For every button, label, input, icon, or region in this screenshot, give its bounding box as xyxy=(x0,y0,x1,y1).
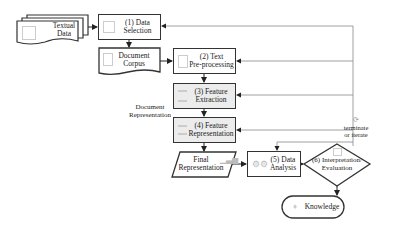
interpretation-line1: (6) Interpretation/ xyxy=(306,156,368,164)
evaluation-icon xyxy=(333,148,342,156)
feature-representation-node: (4) FeatureRepresentation xyxy=(173,117,236,143)
final-representation-line2: Representation xyxy=(176,164,226,172)
selection-icon xyxy=(103,21,115,33)
feature-extraction-line2: Extraction xyxy=(187,96,235,105)
data-selection-node: (1) DataSelection xyxy=(98,14,161,40)
knowledge-node: Knowledge xyxy=(302,203,342,211)
textual-data-line2: Data xyxy=(44,30,84,38)
list-icon xyxy=(178,90,187,102)
terminate-line: terminate xyxy=(338,124,374,131)
feature-representation-line2: Representation xyxy=(187,130,235,139)
document-icon xyxy=(103,53,113,66)
data-analysis-line2: Analysis xyxy=(266,164,300,173)
text-preprocessing-line2: Pre-processing xyxy=(188,61,235,70)
document-corpus-node: Document Corpus xyxy=(110,52,158,68)
document-icon xyxy=(178,55,188,68)
cycle-icon: ⟳ xyxy=(338,117,374,124)
iterate-line: or iterate xyxy=(338,131,374,138)
data-selection-line2: Selection xyxy=(115,27,160,36)
document-representation-line1: Document xyxy=(128,103,172,111)
document-corpus-line2: Corpus xyxy=(110,60,158,68)
document-representation-label: Document Representation xyxy=(128,103,172,119)
lightbulb-icon: ♦ xyxy=(290,203,300,211)
bar-chart-icon: ▁▃▅ xyxy=(220,156,238,164)
textual-data-node: Textual Data xyxy=(44,22,84,38)
final-representation-node: Final Representation xyxy=(176,156,226,172)
feature-extraction-node: (3) FeatureExtraction xyxy=(173,83,236,109)
document-representation-line2: Representation xyxy=(128,111,172,119)
interpretation-line2: Evaluation xyxy=(306,164,368,172)
table-icon xyxy=(178,125,187,135)
interpretation-node: (6) Interpretation/ Evaluation xyxy=(306,156,368,172)
chart-doc-icon xyxy=(22,26,36,40)
text-preprocessing-node: (2) TextPre-processing xyxy=(173,48,236,74)
gears-icon: ⚙⚙ xyxy=(252,159,266,169)
terminate-iterate-label: ⟳ terminate or iterate xyxy=(338,117,374,138)
data-analysis-node: ⚙⚙ (5) DataAnalysis xyxy=(247,151,301,177)
